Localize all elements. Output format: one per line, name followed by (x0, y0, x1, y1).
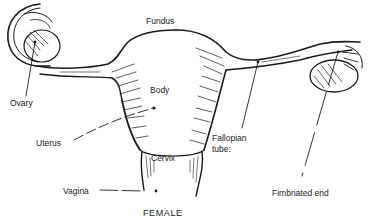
label-cervix: Cervix (151, 153, 175, 163)
label-ovary: Ovary (10, 98, 33, 108)
female-reproductive-diagram: Fundus Body Ovary Uterus Cervix Vagina F… (0, 0, 372, 222)
label-vagina: Vagina (63, 186, 89, 196)
label-fallopian-tube-line1: Fallopian (212, 133, 247, 143)
left-ovary-shape (8, 4, 60, 66)
label-body: Body (150, 85, 169, 95)
label-fimbriated-end: Fimbriated end (272, 188, 329, 198)
diagram-title: FEMALE (143, 208, 183, 218)
label-uterus: Uterus (36, 138, 61, 148)
label-fallopian-tube-line2: tube: (212, 144, 231, 154)
label-fundus: Fundus (146, 16, 174, 26)
